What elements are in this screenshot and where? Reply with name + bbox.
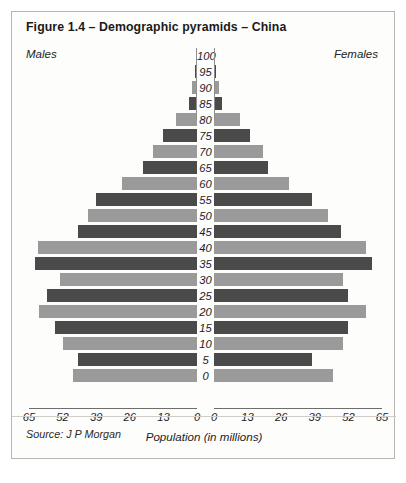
age-group-label: 65 bbox=[197, 160, 214, 176]
males-bar bbox=[73, 369, 197, 382]
males-bar bbox=[78, 353, 197, 366]
males-bar bbox=[153, 145, 197, 158]
females-bar-cell bbox=[214, 256, 396, 272]
age-group-label: 90 bbox=[197, 80, 214, 96]
females-bar-cell bbox=[214, 320, 396, 336]
males-bar-cell bbox=[12, 256, 197, 272]
age-group-label: 0 bbox=[197, 368, 214, 384]
females-bar-cell bbox=[214, 304, 396, 320]
x-tick-label-females: 39 bbox=[304, 411, 326, 423]
males-bar bbox=[60, 273, 197, 286]
pyramid-row: 70 bbox=[12, 144, 396, 160]
females-bar-cell bbox=[214, 224, 396, 240]
males-bar-cell bbox=[12, 368, 197, 384]
females-bar-cell bbox=[214, 160, 396, 176]
x-tick-label-males: 39 bbox=[85, 411, 107, 423]
males-bar-cell bbox=[12, 288, 197, 304]
x-tick-label-females: 65 bbox=[371, 411, 393, 423]
x-tick-label-females: 26 bbox=[270, 411, 292, 423]
males-bar bbox=[88, 209, 197, 222]
pyramid-row: 50 bbox=[12, 208, 396, 224]
source-note: Source: J P Morgan bbox=[26, 428, 121, 440]
females-bar-cell bbox=[214, 144, 396, 160]
age-group-label: 20 bbox=[197, 304, 214, 320]
females-bar-cell bbox=[214, 336, 396, 352]
age-group-label: 15 bbox=[197, 320, 214, 336]
females-bar-cell bbox=[214, 192, 396, 208]
males-bar-cell bbox=[12, 240, 197, 256]
females-bar-cell bbox=[214, 64, 396, 80]
females-bar bbox=[214, 97, 222, 110]
females-bar bbox=[214, 273, 343, 286]
x-axis-line-right bbox=[214, 408, 382, 409]
females-bar bbox=[214, 369, 333, 382]
age-group-label: 75 bbox=[197, 128, 214, 144]
females-bar bbox=[214, 321, 348, 334]
females-bar bbox=[214, 289, 348, 302]
females-bar-cell bbox=[214, 288, 396, 304]
pyramid-row: 85 bbox=[12, 96, 396, 112]
x-tick-label-males: 52 bbox=[52, 411, 74, 423]
x-tick-label-males: 65 bbox=[18, 411, 40, 423]
pyramid-row: 60 bbox=[12, 176, 396, 192]
pyramid-row: 45 bbox=[12, 224, 396, 240]
females-bar-cell bbox=[214, 368, 396, 384]
females-bar bbox=[214, 225, 341, 238]
pyramid-row: 55 bbox=[12, 192, 396, 208]
pyramid-row: 40 bbox=[12, 240, 396, 256]
pyramid-row: 0 bbox=[12, 368, 396, 384]
males-bar-cell bbox=[12, 192, 197, 208]
females-bar-cell bbox=[214, 272, 396, 288]
centre-guide-rule bbox=[196, 48, 197, 120]
males-bar bbox=[96, 193, 197, 206]
males-bar-cell bbox=[12, 320, 197, 336]
age-group-label: 50 bbox=[197, 208, 214, 224]
age-group-label: 5 bbox=[197, 352, 214, 368]
age-group-label: 40 bbox=[197, 240, 214, 256]
figure-title: Figure 1.4 – Demographic pyramids – Chin… bbox=[26, 20, 286, 34]
males-bar-cell bbox=[12, 272, 197, 288]
age-group-label: 95 bbox=[197, 64, 214, 80]
males-bar bbox=[38, 241, 197, 254]
age-group-label: 70 bbox=[197, 144, 214, 160]
females-bar bbox=[214, 177, 289, 190]
x-tick-label-females: 52 bbox=[337, 411, 359, 423]
females-bar bbox=[214, 353, 312, 366]
females-bar-cell bbox=[214, 128, 396, 144]
females-bar bbox=[214, 305, 366, 318]
x-tick-label-females: 13 bbox=[237, 411, 259, 423]
females-bar-cell bbox=[214, 80, 396, 96]
females-bar bbox=[214, 145, 263, 158]
females-bar-cell bbox=[214, 96, 396, 112]
x-tick-label-males: 26 bbox=[119, 411, 141, 423]
females-bar bbox=[214, 113, 240, 126]
males-bar bbox=[39, 305, 197, 318]
females-bar-cell bbox=[214, 48, 396, 64]
age-group-label: 10 bbox=[197, 336, 214, 352]
males-bar bbox=[78, 225, 197, 238]
females-bar bbox=[214, 241, 366, 254]
females-bar-cell bbox=[214, 208, 396, 224]
age-group-label: 100 bbox=[197, 48, 214, 64]
males-bar bbox=[47, 289, 197, 302]
males-bar-cell bbox=[12, 128, 197, 144]
age-group-label: 30 bbox=[197, 272, 214, 288]
age-group-label: 45 bbox=[197, 224, 214, 240]
pyramid-row: 25 bbox=[12, 288, 396, 304]
age-group-label: 35 bbox=[197, 256, 214, 272]
males-bar bbox=[63, 337, 197, 350]
females-bar bbox=[214, 209, 328, 222]
females-bar bbox=[214, 337, 343, 350]
males-bar-cell bbox=[12, 112, 197, 128]
males-bar-cell bbox=[12, 144, 197, 160]
females-bar bbox=[214, 129, 250, 142]
males-bar bbox=[163, 129, 197, 142]
pyramid-row: 30 bbox=[12, 272, 396, 288]
age-group-label: 25 bbox=[197, 288, 214, 304]
males-bar bbox=[55, 321, 197, 334]
males-bar-cell bbox=[12, 352, 197, 368]
males-bar-cell bbox=[12, 80, 197, 96]
females-bar-cell bbox=[214, 352, 396, 368]
x-tick-label-males: 13 bbox=[152, 411, 174, 423]
males-bar bbox=[122, 177, 197, 190]
